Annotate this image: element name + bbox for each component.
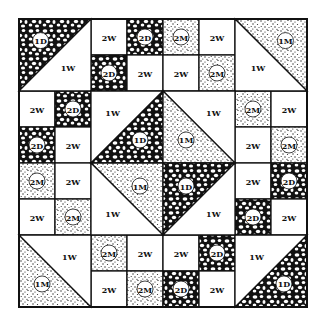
square-label: 2D: [103, 69, 116, 79]
square-label: 2D: [139, 33, 152, 43]
square-label: 2M: [210, 69, 225, 79]
triangle-label: 1M: [179, 135, 194, 145]
square-label: 2D: [211, 249, 224, 259]
square-label: 2W: [210, 33, 226, 43]
square-label: 2W: [246, 177, 262, 187]
triangle-label: 1D: [278, 279, 291, 289]
square-label: 2M: [30, 177, 45, 187]
square-label: 2W: [30, 213, 46, 223]
triangle-label: 1D: [34, 36, 47, 46]
triangle-label: 1W: [251, 63, 267, 73]
square-label: 2D: [175, 285, 188, 295]
triangle-label: 1M: [133, 182, 148, 192]
square-label: 2M: [66, 213, 81, 223]
square-label: 2W: [282, 213, 298, 223]
square-label: 2W: [174, 69, 190, 79]
square-label: 2M: [174, 33, 189, 43]
square-label: 2M: [102, 249, 117, 259]
triangle-label: 1W: [105, 108, 121, 118]
square-label: 2W: [102, 285, 118, 295]
quilt-block-diagram: 2W2D2D2W2M2W2W2M2W2D2D2W2M2W2W2M2M2W2W2M…: [0, 0, 324, 324]
square-label: 2M: [246, 105, 261, 115]
square-label: 2W: [66, 141, 82, 151]
triangle-label: 1M: [278, 36, 293, 46]
square-label: 2D: [283, 177, 296, 187]
square-label: 2W: [138, 249, 154, 259]
square-label: 2M: [282, 141, 297, 151]
square-label: 2W: [246, 141, 262, 151]
triangle-label: 1W: [249, 252, 265, 262]
square-label: 2W: [174, 249, 190, 259]
square-label: 2W: [102, 33, 118, 43]
square-label: 2W: [282, 105, 298, 115]
square-label: 2W: [138, 69, 154, 79]
triangle-label: 1D: [180, 182, 193, 192]
triangle-label: 1W: [206, 209, 222, 219]
square-label: 2M: [138, 285, 153, 295]
square-label: 2W: [66, 177, 82, 187]
triangle-label: 1M: [35, 279, 50, 289]
square-label: 2W: [30, 105, 46, 115]
triangle-label: 1W: [105, 209, 121, 219]
triangle-label: 1W: [62, 252, 78, 262]
triangle-label: 1W: [61, 63, 77, 73]
triangle-label: 1W: [206, 108, 222, 118]
square-label: 2W: [210, 285, 226, 295]
square-label: 2D: [31, 141, 44, 151]
square-label: 2D: [247, 213, 260, 223]
triangle-label: 1D: [134, 135, 147, 145]
square-label: 2D: [67, 105, 80, 115]
